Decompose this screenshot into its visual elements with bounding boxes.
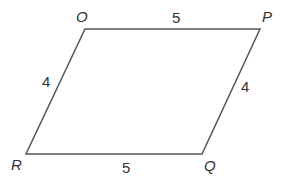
side-label-RO: 4: [42, 73, 50, 90]
side-label-PQ: 4: [241, 78, 249, 95]
vertex-label-O: O: [76, 8, 88, 25]
vertex-label-Q: Q: [204, 157, 216, 174]
parallelogram-OPQR: [26, 29, 260, 154]
vertex-label-R: R: [11, 156, 22, 173]
vertex-label-P: P: [262, 8, 272, 25]
parallelogram-diagram: O P Q R 5 4 5 4: [0, 0, 288, 187]
side-label-QR: 5: [122, 159, 130, 176]
side-label-OP: 5: [172, 9, 180, 26]
